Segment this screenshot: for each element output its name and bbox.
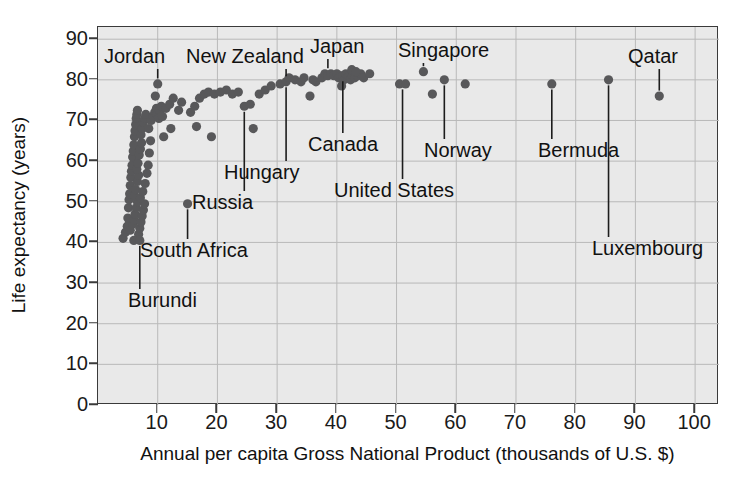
x-tick-label: 80 xyxy=(545,412,605,432)
x-tick-label: 70 xyxy=(485,412,545,432)
annotation-label-canada: Canada xyxy=(308,134,378,154)
x-tick-label: 20 xyxy=(186,412,246,432)
y-tick-label: 50 xyxy=(48,191,88,211)
plot-area xyxy=(97,26,718,404)
x-tick-mark xyxy=(693,404,695,413)
x-tick-mark xyxy=(275,404,277,413)
x-tick-mark xyxy=(634,404,636,413)
y-tick-label: 40 xyxy=(48,231,88,251)
annotation-label-jordan: Jordan xyxy=(104,46,165,66)
annotation-label-qatar: Qatar xyxy=(628,46,678,66)
x-tick-label: 60 xyxy=(425,412,485,432)
y-axis-tick-labels: 0102030405060708090 xyxy=(40,26,88,404)
annotation-label-bermuda: Bermuda xyxy=(538,140,619,160)
x-tick-mark xyxy=(395,404,397,413)
y-tick-label: 0 xyxy=(48,394,88,414)
y-tick-label: 80 xyxy=(48,69,88,89)
x-tick-label: 10 xyxy=(127,412,187,432)
x-axis-title: Annual per capita Gross National Product… xyxy=(97,443,718,465)
x-tick-label: 100 xyxy=(664,412,724,432)
annotation-label-singapore: Singapore xyxy=(398,40,489,60)
x-tick-mark xyxy=(455,404,457,413)
y-tick-label: 30 xyxy=(48,272,88,292)
x-tick-label: 50 xyxy=(366,412,426,432)
x-tick-mark xyxy=(335,404,337,413)
x-tick-mark xyxy=(514,404,516,413)
x-tick-label: 90 xyxy=(604,412,664,432)
x-tick-label: 40 xyxy=(306,412,366,432)
x-tick-mark xyxy=(216,404,218,413)
annotation-label-burundi: Burundi xyxy=(128,290,197,310)
annotation-label-hungary: Hungary xyxy=(224,162,300,182)
y-tick-label: 20 xyxy=(48,313,88,333)
y-tick-label: 70 xyxy=(48,109,88,129)
annotation-label-south-africa: South Africa xyxy=(140,240,248,260)
annotation-label-luxembourg: Luxembourg xyxy=(592,238,703,258)
y-tick-label: 60 xyxy=(48,150,88,170)
y-tick-label: 10 xyxy=(48,353,88,373)
annotation-leader-lines xyxy=(98,27,717,403)
y-tick-label: 90 xyxy=(48,28,88,48)
x-tick-mark xyxy=(156,404,158,413)
y-axis-title: Life expectancy (years) xyxy=(4,26,34,404)
x-axis-tick-labels: 102030405060708090100 xyxy=(97,412,718,438)
chart-figure: Life expectancy (years) 0102030405060708… xyxy=(0,0,735,486)
annotation-label-united-states: United States xyxy=(334,180,454,200)
x-tick-mark xyxy=(574,404,576,413)
annotation-label-russia: Russia xyxy=(192,192,253,212)
x-tick-label: 30 xyxy=(246,412,306,432)
annotation-label-japan: Japan xyxy=(310,36,365,56)
annotation-label-new-zealand: New Zealand xyxy=(186,46,304,66)
annotation-label-norway: Norway xyxy=(424,140,492,160)
